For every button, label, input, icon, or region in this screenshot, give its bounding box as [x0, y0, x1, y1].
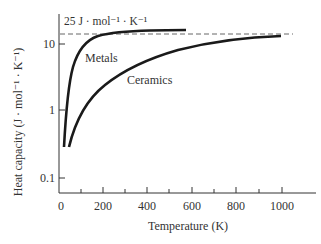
x-tick-label-400: 400	[138, 199, 156, 213]
x-tick-label-1000: 1000	[270, 199, 294, 213]
ceramics-label: Ceramics	[127, 73, 173, 87]
x-tick-label-800: 800	[227, 199, 245, 213]
x-ticks-major	[103, 187, 282, 193]
x-tick-label-200: 200	[94, 199, 112, 213]
y-tick-label-1: 1	[49, 103, 55, 117]
x-tick-label-0: 0	[58, 199, 64, 213]
x-ticks-minor	[81, 189, 259, 193]
x-axis-title: Temperature (K)	[148, 219, 228, 233]
heat-capacity-chart: 10 1 0.1 0 200 400 600 800 1000 Temperat…	[0, 0, 321, 244]
y-axis-title: Heat capacity (J · mol⁻¹ · K⁻¹)	[11, 48, 25, 196]
y-tick-label-0.1: 0.1	[40, 171, 55, 185]
metals-curve	[64, 30, 186, 147]
y-ticks	[59, 44, 65, 178]
y-tick-label-10: 10	[43, 37, 55, 51]
metals-label: Metals	[85, 51, 118, 65]
reference-line-label: 25 J · mol⁻¹ · K⁻¹	[64, 15, 148, 27]
x-tick-label-600: 600	[183, 199, 201, 213]
